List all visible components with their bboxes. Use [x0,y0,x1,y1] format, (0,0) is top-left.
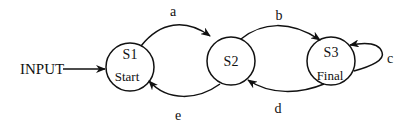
transition-d-label: d [275,101,282,116]
state-s1-sublabel: Start [115,69,140,84]
transition-b-label: b [276,8,283,23]
state-s1: S1 Start [106,43,154,91]
transition-a-arrow [141,25,210,46]
input-label: INPUT [20,61,64,77]
transition-d-arrow [248,80,324,91]
state-s3-name: S3 [324,45,339,60]
state-s2-name: S2 [224,54,239,69]
transition-a-label: a [170,4,177,19]
state-s1-name: S1 [123,47,138,62]
transition-e-label: e [175,108,181,123]
state-s2: S2 [207,37,255,85]
transition-b-arrow [241,26,320,40]
transition-e-arrow [149,81,220,96]
state-s3: S3 Final [307,37,355,85]
transition-c-label: c [387,51,393,66]
state-s3-sublabel: Final [317,68,344,83]
state-diagram: INPUT S1 Start S2 S3 Final a b c d e [0,0,413,126]
